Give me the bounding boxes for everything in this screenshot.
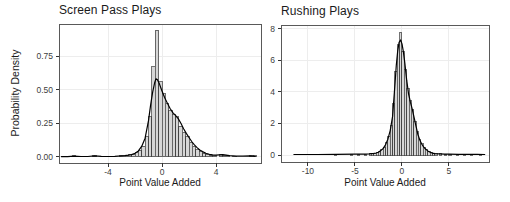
panel-border xyxy=(281,25,489,162)
histogram-bar xyxy=(196,150,199,157)
x-tick-label: -10 xyxy=(302,166,315,176)
histogram-bar xyxy=(145,137,148,157)
y-tick-label: 0.50 xyxy=(36,85,53,95)
histogram-bar xyxy=(407,89,409,155)
rushing-plot-area: -10-5050.00.20.40.60.8 xyxy=(270,0,510,202)
y-tick-label: 0.8 xyxy=(270,24,275,34)
x-tick-label: -5 xyxy=(351,166,359,176)
histogram-bar xyxy=(138,150,141,157)
histogram-bar xyxy=(409,101,411,155)
histogram-bar xyxy=(186,137,189,157)
x-tick-label: 4 xyxy=(214,167,219,177)
histogram-bar xyxy=(165,103,168,157)
histogram-bar xyxy=(189,142,192,157)
histogram-bar xyxy=(182,132,185,157)
histogram-bar xyxy=(155,30,158,157)
x-axis-label: Point Value Added xyxy=(119,177,201,188)
histogram-bar xyxy=(402,51,404,155)
y-tick-label: 0.2 xyxy=(270,118,275,128)
histogram-bar xyxy=(397,45,399,155)
histogram-bar xyxy=(199,152,202,157)
histogram-bar xyxy=(209,155,212,157)
histogram-bar xyxy=(192,146,195,157)
histogram-bar xyxy=(172,115,175,157)
x-tick-label: -4 xyxy=(104,167,112,177)
y-tick-label: 0.0 xyxy=(270,150,275,160)
histogram-bar xyxy=(206,154,209,157)
histogram-bar xyxy=(179,126,182,157)
point-value-added-density-figure: Screen Pass Plays Probability Density -4… xyxy=(0,0,510,202)
histogram-bar xyxy=(159,82,162,157)
y-tick-label: 0.00 xyxy=(36,152,53,162)
y-tick-label: 0.25 xyxy=(36,118,53,128)
screen-pass-plot-area: -4040.000.250.500.75 xyxy=(0,0,270,202)
histogram-bar xyxy=(400,32,402,155)
x-axis-label: Point Value Added xyxy=(344,177,426,188)
histogram-bar xyxy=(162,94,165,157)
histogram-bar xyxy=(404,70,406,155)
y-tick-label: 0.4 xyxy=(270,87,275,97)
x-tick-label: 5 xyxy=(447,166,452,176)
histogram-bar xyxy=(149,117,152,157)
histogram-bar xyxy=(203,153,206,156)
histogram-bar xyxy=(152,67,155,157)
histogram-bar xyxy=(176,117,179,157)
y-tick-label: 0.6 xyxy=(270,55,275,65)
histogram-bar xyxy=(213,156,216,157)
x-tick-label: 0 xyxy=(400,166,405,176)
y-tick-label: 0.75 xyxy=(36,51,53,61)
histogram-bar xyxy=(169,111,172,157)
x-tick-label: 0 xyxy=(160,167,165,177)
histogram-bar xyxy=(142,146,145,157)
